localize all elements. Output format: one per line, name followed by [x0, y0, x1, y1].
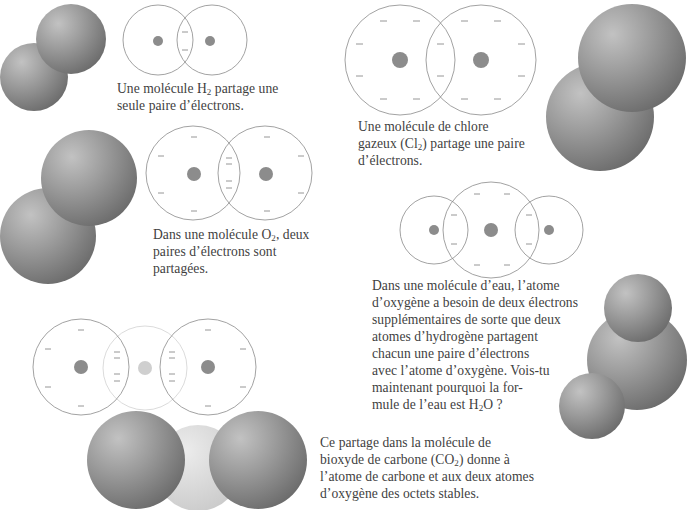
caption-line: gazeux (Cl2) partage une paire: [358, 135, 525, 152]
caption-line: d’électrons.: [358, 152, 525, 169]
caption-text: ) donne à: [459, 452, 510, 467]
co2-nucleus-carbon: [138, 361, 152, 375]
caption-line: atomes d’hydrogène partagent: [372, 328, 578, 345]
o2-caption: Dans une molécule O2, deux paires d’élec…: [153, 226, 309, 277]
cl2-caption: Une molécule de chlore gazeux (Cl2) part…: [358, 118, 525, 169]
caption-text: Dans une molécule O: [153, 227, 271, 242]
caption-line: chacun une paire d’électrons: [372, 345, 578, 362]
caption-line: d’oxygène des octets stables.: [320, 485, 534, 502]
h2-nucleus-left: [153, 36, 163, 46]
caption-text: Une molécule H: [117, 81, 207, 96]
o2-nucleus-right: [259, 167, 273, 181]
caption-line: seule paire d’électrons.: [117, 97, 278, 114]
caption-line: supplémentaires de sorte que deux: [372, 311, 578, 328]
caption-line: mule de l’eau est H2O ?: [372, 396, 578, 413]
h2o-sphere-hydrogen-top: [604, 274, 672, 342]
co2-electron-diagram: [33, 319, 256, 415]
cl2-electron-diagram: [345, 5, 536, 115]
caption-text: gazeux (Cl: [358, 136, 418, 151]
h2o-nucleus-hydrogen-left: [429, 225, 439, 235]
caption-line: l’atome de carbone et aux deux atomes: [320, 468, 534, 485]
cl2-nucleus-right: [473, 52, 489, 68]
o2-nucleus-left: [187, 167, 201, 181]
h2o-space-filling-model: [559, 274, 687, 439]
caption-text: , deux: [276, 227, 310, 242]
cl2-space-filling-model: [546, 4, 686, 171]
cl2-electrons: [356, 21, 525, 99]
caption-text: bioxyde de carbone (CO: [320, 452, 454, 467]
caption-line: bioxyde de carbone (CO2) donne à: [320, 451, 534, 468]
caption-line: maintenant pourquoi la for-: [372, 379, 578, 396]
o2-electron-diagram: [146, 126, 312, 220]
co2-sphere-oxygen-left: [87, 411, 185, 509]
caption-text: O ?: [483, 397, 502, 412]
co2-sphere-oxygen-right: [209, 411, 307, 509]
caption-line: Ce partage dans la molécule de: [320, 434, 534, 451]
co2-caption: Ce partage dans la molécule de bioxyde d…: [320, 434, 534, 502]
caption-line: Une molécule H2 partage une: [117, 80, 278, 97]
caption-text: ) partage une paire: [422, 136, 524, 151]
o2-electrons: [158, 137, 304, 211]
h2-shared-electrons: [182, 32, 188, 50]
h2o-nucleus-oxygen: [484, 223, 498, 237]
h2-space-filling-model: [0, 4, 106, 111]
co2-nucleus-oxygen-right: [201, 360, 215, 374]
caption-line: avec l’atome d’oxygène. Vois-tu: [372, 362, 578, 379]
h2-electron-diagram: [123, 5, 247, 75]
caption-line: Une molécule de chlore: [358, 118, 525, 135]
caption-line: Dans une molécule O2, deux: [153, 226, 309, 243]
co2-space-filling-model: [87, 411, 307, 510]
caption-text: mule de l’eau est H: [372, 397, 479, 412]
caption-line: d’oxygène a besoin de deux électrons: [372, 294, 578, 311]
h2-nucleus-right: [205, 36, 215, 46]
h2o-caption: Dans une molécule d’eau, l’atome d’oxygè…: [372, 277, 578, 413]
caption-line: partagées.: [153, 260, 309, 277]
caption-text: partage une: [211, 81, 278, 96]
h2o-nucleus-hydrogen-right: [544, 225, 554, 235]
cl2-sphere-upper: [578, 4, 686, 112]
o2-space-filling-model: [0, 130, 137, 284]
caption-line: Dans une molécule d’eau, l’atome: [372, 277, 578, 294]
cl2-nucleus-left: [392, 52, 408, 68]
co2-nucleus-oxygen-left: [74, 360, 88, 374]
h2-sphere-upper: [36, 4, 106, 74]
h2o-electron-diagram: [400, 182, 583, 278]
o2-sphere-upper: [41, 130, 137, 226]
h2-caption: Une molécule H2 partage une seule paire …: [117, 80, 278, 114]
caption-line: paires d’électrons sont: [153, 243, 309, 260]
